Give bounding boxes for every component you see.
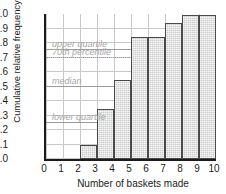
bar [131,37,148,159]
plot-area: upper quartile70th percentilemedianlower… [44,14,216,161]
bar [148,37,165,159]
bar [114,80,131,159]
y-tick-label: 0.4 [0,95,8,106]
gridline-vertical [46,14,47,159]
x-tick-mark [182,159,183,161]
y-axis-label: Cumulative relative frequency [11,0,22,136]
x-tick-mark [97,159,98,161]
x-tick-mark [199,159,200,161]
y-tick-mark [44,100,46,101]
annotation-label: median [52,76,82,86]
bar [80,145,97,160]
y-tick-label: 0.6 [0,66,8,77]
y-tick-label: 0.8 [0,37,8,48]
y-tick-label: 0.3 [0,110,8,121]
annotation-label: 70th percentile [52,47,111,57]
y-tick-label: 0.0 [0,153,8,164]
y-tick-mark [44,42,46,43]
annotation-label: lower quartile [52,112,106,122]
y-tick-label: 0.1 [0,139,8,150]
bar [165,23,182,159]
y-tick-mark [44,28,46,29]
x-tick-mark [80,159,81,161]
x-tick-mark [114,159,115,161]
bar [199,15,216,159]
gridline-vertical [63,14,64,159]
y-tick-label: 0.7 [0,52,8,63]
x-tick-mark [131,159,132,161]
y-tick-mark [44,86,46,87]
x-tick-mark [46,159,47,161]
x-axis-label: Number of baskets made [42,178,224,189]
y-tick-label: 0.9 [0,23,8,34]
x-tick-mark [148,159,149,161]
y-tick-label: 1.0 [0,8,8,19]
bar [182,15,199,159]
cumulative-frequency-chart: Cumulative relative frequency upper quar… [0,0,226,194]
y-tick-mark [44,71,46,72]
x-tick-mark [165,159,166,161]
y-tick-label: 0.5 [0,81,8,92]
y-tick-mark [44,115,46,116]
y-tick-label: 0.2 [0,124,8,135]
gridline-vertical [80,14,81,159]
y-tick-mark [44,129,46,130]
x-tick-label: 10 [204,163,224,174]
x-tick-mark [63,159,64,161]
y-tick-mark [44,57,46,58]
y-tick-mark [44,144,46,145]
